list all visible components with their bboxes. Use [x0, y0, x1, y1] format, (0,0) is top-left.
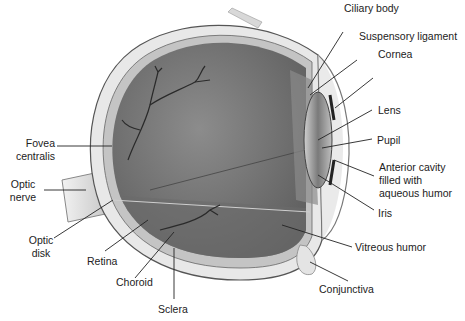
label-cornea: Cornea: [378, 48, 412, 60]
label-ciliary-body: Ciliary body: [344, 2, 399, 14]
label-anterior-cavity-line3: aqueous humor: [379, 187, 452, 199]
label-fovea-centralis-line1: Fovea: [0, 137, 55, 149]
label-optic-disk-line1: Optic: [24, 234, 58, 246]
label-vitreous-humor: Vitreous humor: [355, 241, 426, 253]
label-optic-disk-line2: disk: [24, 247, 58, 259]
label-sclera: Sclera: [158, 303, 188, 315]
label-anterior-cavity-line1: Anterior cavity: [379, 161, 446, 173]
label-lens: Lens: [378, 104, 401, 116]
label-choroid: Choroid: [116, 276, 153, 288]
label-optic-nerve-line1: Optic: [6, 178, 40, 190]
label-conjunctiva: Conjunctiva: [319, 283, 374, 295]
eye-anatomy-diagram: Ciliary body Suspensory ligament Cornea …: [0, 0, 465, 321]
label-retina: Retina: [87, 255, 117, 267]
label-anterior-cavity-line2: filled with: [379, 174, 422, 186]
label-pupil: Pupil: [377, 134, 400, 146]
label-fovea-centralis-line2: centralis: [0, 150, 55, 162]
label-iris: Iris: [378, 207, 392, 219]
label-suspensory-ligament: Suspensory ligament: [359, 30, 457, 42]
label-optic-nerve-line2: nerve: [6, 191, 40, 203]
